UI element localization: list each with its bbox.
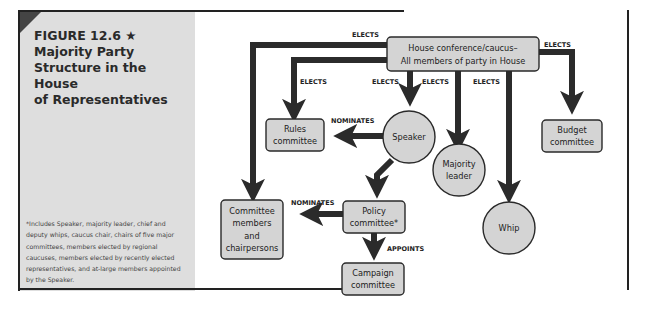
label-elects-6: ELECTS (544, 41, 571, 49)
svg-text:and: and (244, 231, 259, 241)
svg-text:committee: committee (550, 137, 594, 147)
svg-text:Whip: Whip (499, 223, 520, 233)
right-border (627, 10, 629, 290)
node-committee-members: Committee members and chairpersons (221, 200, 283, 259)
node-speaker: Speaker (383, 111, 435, 163)
svg-text:committee*: committee* (350, 218, 398, 228)
label-nominates-1: NOMINATES (331, 117, 375, 125)
svg-text:Rules: Rules (284, 124, 306, 134)
node-rules-committee: Rules committee (266, 119, 324, 151)
svg-text:All members of party in House: All members of party in House (401, 56, 526, 66)
label-nominates-2: NOMINATES (291, 199, 335, 207)
org-chart: ELECTS ELECTS ELECTS ELECTS ELECTS ELECT… (0, 0, 647, 322)
edge-caucus-rules (294, 60, 392, 112)
node-majority-leader: Majority leader (433, 144, 485, 196)
svg-text:chairpersons: chairpersons (226, 243, 279, 253)
node-caucus: House conference/caucus– All members of … (387, 37, 539, 71)
node-policy-committee: Policy committee* (343, 201, 405, 233)
svg-text:committee: committee (351, 280, 395, 290)
label-appoints: APPOINTS (387, 245, 424, 253)
svg-text:committee: committee (273, 136, 317, 146)
edge-caucus-budget (538, 52, 572, 104)
svg-text:Campaign: Campaign (352, 268, 394, 278)
label-elects-5: ELECTS (473, 78, 500, 86)
svg-text:Speaker: Speaker (392, 132, 426, 142)
edge-speaker-policy (377, 160, 392, 188)
svg-text:Budget: Budget (557, 125, 587, 135)
node-campaign-committee: Campaign committee (342, 263, 404, 295)
svg-text:Policy: Policy (362, 206, 386, 216)
label-elects-3: ELECTS (372, 78, 399, 86)
node-whip: Whip (483, 202, 535, 254)
svg-text:House conference/caucus–: House conference/caucus– (408, 43, 517, 53)
svg-text:Committee: Committee (229, 206, 274, 216)
label-elects-4: ELECTS (422, 78, 449, 86)
label-elects-2: ELECTS (300, 78, 327, 86)
svg-text:Majority: Majority (442, 159, 475, 169)
svg-text:leader: leader (446, 171, 473, 181)
label-elects-1: ELECTS (352, 31, 379, 39)
node-budget-committee: Budget committee (542, 120, 602, 152)
svg-text:members: members (233, 218, 272, 228)
